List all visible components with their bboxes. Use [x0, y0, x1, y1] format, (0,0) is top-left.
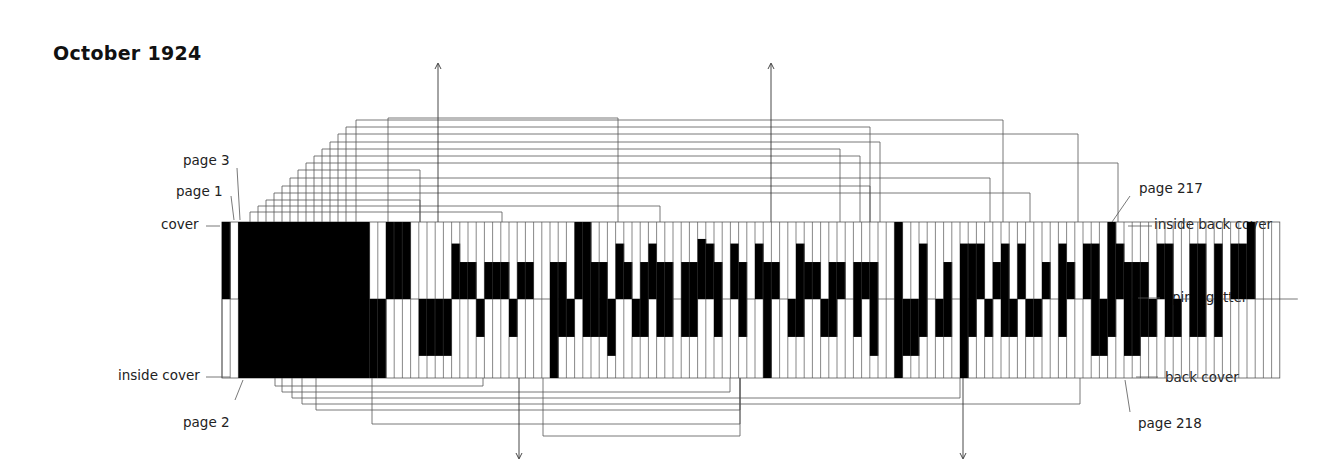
page-columns — [222, 222, 1298, 378]
page-layout-diagram — [0, 0, 1329, 469]
